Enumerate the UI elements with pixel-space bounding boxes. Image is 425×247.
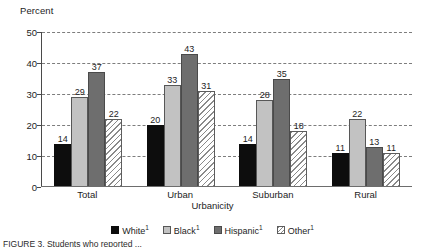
legend-item-black[interactable]: Black1 — [163, 224, 200, 236]
bar-urban-white[interactable]: 20 — [147, 125, 164, 187]
x-axis-line — [41, 186, 412, 187]
bar-wrap-rural-hispanic: 13 — [366, 32, 383, 187]
bar-total-white[interactable]: 14 — [54, 144, 71, 187]
legend-item-white[interactable]: White1 — [111, 224, 149, 236]
bar-rural-white[interactable]: 11 — [332, 153, 349, 187]
legend-swatch-hispanic-icon — [214, 226, 222, 234]
bar-wrap-suburban-white: 14 — [239, 32, 256, 187]
bar-total-other[interactable]: 22 — [105, 119, 122, 187]
bar-value-total-black: 29 — [75, 87, 85, 97]
bar-groups: 14 29 37 22 — [42, 32, 412, 187]
bar-wrap-rural-white: 11 — [332, 32, 349, 187]
bar-total-black[interactable]: 29 — [71, 97, 88, 187]
bar-value-suburban-white: 14 — [243, 134, 253, 144]
bar-rural-hispanic[interactable]: 13 — [366, 147, 383, 187]
bar-wrap-urban-black: 33 — [164, 32, 181, 187]
bar-group-suburban: 14 28 35 18 — [227, 32, 320, 187]
bar-wrap-urban-white: 20 — [147, 32, 164, 187]
bar-suburban-white[interactable]: 14 — [239, 144, 256, 187]
bar-value-total-other: 22 — [109, 109, 119, 119]
bar-rural-other[interactable]: 11 — [383, 153, 400, 187]
bar-wrap-suburban-other: 18 — [290, 32, 307, 187]
legend-label-hispanic: Hispanic1 — [225, 224, 263, 236]
bar-value-urban-white: 20 — [150, 115, 160, 125]
y-tick-label-30: 30 — [15, 89, 37, 100]
y-axis-title: Percent — [20, 5, 53, 16]
y-tick-label-0: 0 — [15, 182, 37, 193]
bar-urban-other[interactable]: 31 — [198, 91, 215, 187]
y-tick-label-20: 20 — [15, 120, 37, 131]
bar-rural-black[interactable]: 22 — [349, 119, 366, 187]
bar-wrap-rural-other: 11 — [383, 32, 400, 187]
bar-value-suburban-black: 28 — [260, 90, 270, 100]
bar-value-urban-other: 31 — [201, 81, 211, 91]
bar-value-rural-white: 11 — [336, 143, 345, 153]
bar-wrap-urban-hispanic: 43 — [181, 32, 198, 187]
bar-value-urban-hispanic: 43 — [184, 44, 194, 54]
bar-wrap-total-other: 22 — [105, 32, 122, 187]
bar-value-suburban-hispanic: 35 — [277, 69, 287, 79]
bar-value-rural-hispanic: 13 — [369, 137, 379, 147]
bar-wrap-suburban-hispanic: 35 — [273, 32, 290, 187]
legend-label-other: Other1 — [288, 224, 314, 236]
x-tick-label-urban: Urban — [134, 189, 227, 200]
bar-total-hispanic[interactable]: 37 — [88, 72, 105, 187]
bar-value-total-white: 14 — [58, 134, 68, 144]
legend-swatch-black-icon — [163, 226, 171, 234]
bar-suburban-hispanic[interactable]: 35 — [273, 79, 290, 188]
x-tick-label-suburban: Suburban — [227, 189, 320, 200]
bar-wrap-total-black: 29 — [71, 32, 88, 187]
bar-group-rural: 11 22 13 11 — [320, 32, 413, 187]
x-tick-label-rural: Rural — [319, 189, 412, 200]
legend-item-hispanic[interactable]: Hispanic1 — [214, 224, 263, 236]
bar-urban-black[interactable]: 33 — [164, 85, 181, 187]
bar-wrap-rural-black: 22 — [349, 32, 366, 187]
legend-label-black: Black1 — [174, 224, 200, 236]
figure-caption: FIGURE 3. Students who reported ... — [3, 239, 425, 247]
bar-group-total: 14 29 37 22 — [42, 32, 135, 187]
bar-value-rural-black: 22 — [352, 109, 362, 119]
figure-container: Percent 50 40 30 20 10 0 — [0, 0, 425, 247]
bar-value-urban-black: 33 — [167, 75, 177, 85]
bar-group-urban: 20 33 43 31 — [135, 32, 228, 187]
x-axis-title: Urbanicity — [0, 200, 425, 211]
chart-legend: White1 Black1 Hispanic1 Other1 — [0, 224, 425, 236]
bar-suburban-black[interactable]: 28 — [256, 100, 273, 187]
bar-value-rural-other: 11 — [387, 143, 396, 153]
bar-value-suburban-other: 18 — [294, 121, 304, 131]
bar-value-total-hispanic: 37 — [92, 62, 102, 72]
plot-area: 14 29 37 22 — [41, 32, 412, 187]
legend-item-other[interactable]: Other1 — [277, 224, 314, 236]
bar-wrap-suburban-black: 28 — [256, 32, 273, 187]
bar-suburban-other[interactable]: 18 — [290, 131, 307, 187]
y-tick-label-40: 40 — [15, 58, 37, 69]
legend-swatch-other-icon — [277, 226, 285, 234]
legend-swatch-white-icon — [111, 226, 119, 234]
bar-urban-hispanic[interactable]: 43 — [181, 54, 198, 187]
bar-wrap-total-hispanic: 37 — [88, 32, 105, 187]
y-tick-label-10: 10 — [15, 151, 37, 162]
bar-wrap-total-white: 14 — [54, 32, 71, 187]
legend-label-white: White1 — [122, 224, 149, 236]
x-tick-label-total: Total — [41, 189, 134, 200]
x-axis-tick-labels: Total Urban Suburban Rural — [41, 189, 412, 200]
bar-wrap-urban-other: 31 — [198, 32, 215, 187]
y-tick-label-50: 50 — [15, 27, 37, 38]
